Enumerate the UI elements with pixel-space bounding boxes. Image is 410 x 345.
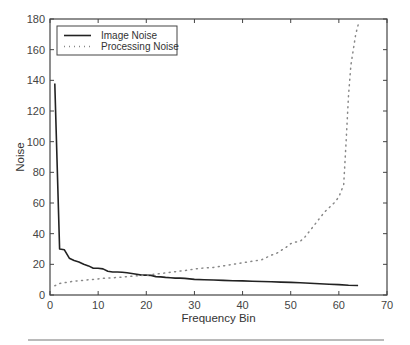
y-tick-label: 100 (27, 136, 45, 148)
x-tick-label: 60 (333, 299, 345, 311)
y-tick-label: 80 (33, 166, 45, 178)
y-tick-label: 20 (33, 258, 45, 270)
x-axis-label: Frequency Bin (181, 312, 255, 324)
plot-area-frame (50, 19, 387, 295)
x-tick-label: 50 (285, 299, 297, 311)
x-tick-label: 40 (236, 299, 248, 311)
series-image-noise (55, 83, 358, 285)
x-tick-label: 10 (92, 299, 104, 311)
x-tick-label: 20 (140, 299, 152, 311)
y-axis-label: Noise (14, 142, 26, 171)
series-processing-noise (55, 25, 358, 286)
legend: Image Noise Processing Noise (57, 26, 179, 55)
series-layer (55, 25, 358, 286)
legend-label-image-noise: Image Noise (101, 30, 158, 41)
x-axis-ticks: 010203040506070 (47, 19, 393, 311)
y-tick-label: 160 (27, 44, 45, 56)
noise-line-chart: 020406080100120140160180 010203040506070… (0, 0, 410, 345)
y-tick-label: 140 (27, 74, 45, 86)
x-tick-label: 0 (47, 299, 53, 311)
legend-label-processing-noise: Processing Noise (101, 41, 179, 52)
x-tick-label: 30 (188, 299, 200, 311)
y-tick-label: 60 (33, 197, 45, 209)
y-tick-label: 0 (39, 289, 45, 301)
y-tick-label: 180 (27, 13, 45, 25)
y-tick-label: 120 (27, 105, 45, 117)
x-tick-label: 70 (381, 299, 393, 311)
y-axis-ticks: 020406080100120140160180 (27, 13, 387, 301)
y-tick-label: 40 (33, 228, 45, 240)
